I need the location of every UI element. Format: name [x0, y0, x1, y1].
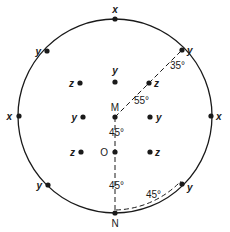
y-bottom-right-label: y: [186, 182, 193, 193]
x-left-dot: [16, 113, 21, 118]
z-lower-right-dot: [147, 149, 152, 154]
O-dot: [112, 149, 117, 154]
z-upper-left-dot: [77, 80, 82, 85]
z-upper-right-label: z: [153, 78, 159, 89]
x-left-label: x: [5, 111, 12, 122]
N-label: N: [111, 218, 118, 229]
y-mid-right-dot: [147, 114, 152, 119]
x-top-dot: [112, 16, 117, 21]
x-top-label: x: [111, 4, 118, 15]
x-right-dot: [208, 113, 213, 118]
z-lower-left-label: z: [69, 147, 75, 158]
y-mid-left-dot: [80, 114, 85, 119]
y-bottom-left-label: y: [35, 180, 42, 191]
O-label: O: [100, 147, 108, 158]
M-label: M: [111, 102, 119, 113]
y-bottom-right-dot: [179, 181, 184, 186]
angle-45-lower: 45°: [109, 180, 124, 191]
x-right-label: x: [215, 111, 222, 122]
z-upper-left-label: z: [68, 78, 74, 89]
y-top-right-label: y: [186, 45, 193, 56]
z-upper-right-dot: [146, 80, 151, 85]
y-mid-left-label: y: [70, 112, 77, 123]
M-dot: [112, 114, 117, 119]
angle-45-arc: 45°: [146, 189, 161, 200]
stereogram-diagram: xxxyyyyzyzyyzz MON 35°55°45°45°45°: [0, 0, 230, 232]
z-lower-left-dot: [78, 149, 83, 154]
angle-35: 35°: [170, 60, 185, 71]
pole-points: xxxyyyyzyzyyzz: [5, 4, 222, 193]
y-top-right-dot: [179, 47, 184, 52]
y-top-left-dot: [44, 48, 49, 53]
y-upper-center-dot: [112, 79, 117, 84]
z-lower-right-label: z: [154, 147, 160, 158]
N-dot: [112, 210, 117, 215]
angle-55: 55°: [134, 95, 149, 106]
y-top-left-label: y: [34, 46, 41, 57]
angle-45-upper: 45°: [109, 127, 124, 138]
y-upper-center-label: y: [111, 65, 118, 76]
y-bottom-left-dot: [45, 182, 50, 187]
y-mid-right-label: y: [155, 112, 162, 123]
angle-labels: 35°55°45°45°45°: [109, 60, 185, 200]
